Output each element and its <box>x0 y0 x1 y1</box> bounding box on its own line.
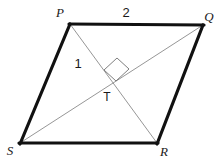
side-SP <box>20 24 70 144</box>
angle-label-1: 1 <box>74 56 81 71</box>
diagonal-PR <box>70 24 157 143</box>
side-QR <box>157 25 203 144</box>
vertex-label-Q: Q <box>204 9 214 24</box>
vertex-label-S: S <box>7 143 14 158</box>
angle-label-2: 2 <box>122 5 129 20</box>
vertex-label-R: R <box>159 144 168 159</box>
parallelogram-diagram: P Q R S 1 2 T <box>0 0 224 160</box>
point-label-T: T <box>103 90 111 104</box>
side-PQ <box>69 24 204 25</box>
geometry-figure: P Q R S 1 2 T <box>0 0 224 160</box>
diagonal-SQ <box>20 25 203 143</box>
vertex-label-P: P <box>55 5 64 20</box>
right-angle-marker-icon <box>104 58 129 81</box>
diagonals-group <box>20 24 203 143</box>
